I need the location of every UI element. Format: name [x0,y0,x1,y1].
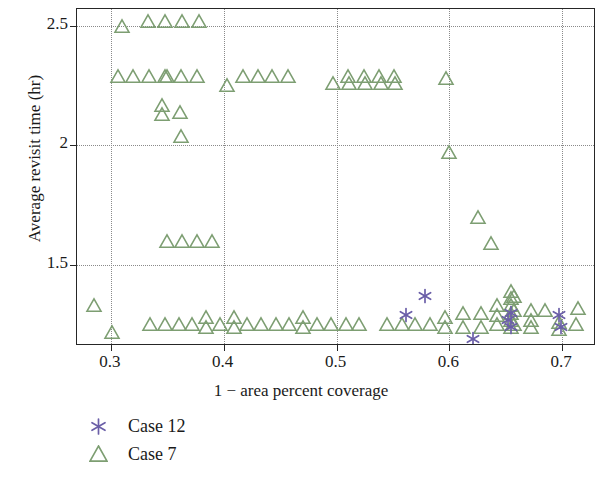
data-point-case-7 [506,317,522,331]
data-point-case-7 [154,97,170,111]
data-point-case-7 [142,317,158,331]
data-point-case-7 [268,317,284,331]
data-point-case-7 [309,317,325,331]
data-point-case-12 [417,288,432,303]
data-point-case-7 [189,234,205,248]
x-axis-tick-label: 0.6 [418,352,478,372]
data-point-case-7 [239,317,255,331]
data-point-case-7 [198,320,214,334]
data-point-case-7 [174,234,190,248]
gridline-horizontal [77,265,594,266]
data-point-case-7 [407,317,423,331]
data-point-case-7 [198,310,214,324]
y-axis-tick [70,265,77,266]
data-point-case-7 [455,305,471,319]
data-point-case-7 [173,69,189,83]
data-point-case-7 [295,320,311,334]
data-point-case-7 [373,76,389,90]
data-point-case-7 [159,69,175,83]
data-point-case-7 [438,71,454,85]
data-point-case-7 [235,69,251,83]
x-axis-tick-label: 0.7 [531,352,591,372]
data-point-case-12 [554,319,569,334]
data-point-case-7 [281,317,297,331]
y-axis-tick-label: 2 [8,133,68,153]
data-point-case-7 [141,69,157,83]
gridline-vertical [111,9,112,344]
legend-label: Case 7 [128,444,177,465]
x-axis-tick [337,344,338,351]
legend-item[interactable]: Case 7 [78,440,186,468]
data-point-case-7 [503,313,519,327]
data-point-case-7 [473,320,489,334]
data-point-case-7 [503,291,519,305]
data-point-case-7 [523,320,539,334]
data-point-case-7 [503,298,519,312]
data-point-case-7 [104,324,120,338]
data-point-case-7 [489,308,505,322]
data-point-case-7 [86,298,102,312]
data-point-case-7 [341,76,357,90]
legend-item[interactable]: Case 12 [78,412,186,440]
x-axis-tick-label: 0.4 [193,352,253,372]
data-point-case-7 [172,105,188,119]
x-axis-tick [449,344,450,351]
x-axis-tick-label: 0.5 [306,352,366,372]
data-point-case-7 [379,317,395,331]
y-axis-tick-label: 2.5 [8,14,68,34]
data-point-case-7 [173,128,189,142]
plot-inner [77,9,594,344]
x-axis-label: 1 − area percent coverage [0,381,602,401]
data-point-case-12 [399,307,414,322]
gridline-horizontal [77,145,594,146]
data-point-case-7 [338,317,354,331]
data-point-case-7 [503,284,519,298]
y-axis-tick [70,145,77,146]
data-point-case-7 [489,298,505,312]
data-point-case-7 [184,317,200,331]
data-point-case-7 [473,305,489,319]
data-point-case-7 [351,317,367,331]
data-point-case-7 [570,301,586,315]
data-point-case-7 [157,317,173,331]
data-point-case-12 [500,312,515,327]
data-point-case-7 [340,69,356,83]
data-point-case-7 [253,317,269,331]
legend-label: Case 12 [128,416,186,437]
x-axis-tick-label: 0.3 [80,352,140,372]
data-point-case-7 [250,69,266,83]
data-point-case-7 [157,69,173,83]
data-point-case-7 [159,234,175,248]
asterisk-icon [78,418,118,435]
data-point-case-12 [466,331,481,344]
data-point-case-7 [171,317,187,331]
data-point-case-7 [506,303,522,317]
data-point-case-12 [504,319,519,334]
data-point-case-7 [503,320,519,334]
data-point-case-7 [551,315,567,329]
data-point-case-7 [568,317,584,331]
gridline-horizontal [77,26,594,27]
data-point-case-7 [371,69,387,83]
data-point-case-7 [437,320,453,334]
x-axis-tick [224,344,225,351]
data-point-case-7 [219,78,235,92]
y-axis-tick-label: 1.5 [8,253,68,273]
scatter-plot-figure: Average revisit time (hr) 1 − area perce… [0,0,602,481]
data-point-case-12 [551,307,566,322]
data-point-case-7 [295,310,311,324]
data-point-case-7 [455,320,471,334]
gridline-vertical [224,9,225,344]
gridline-vertical [449,9,450,344]
x-axis-tick [111,344,112,351]
data-point-case-7 [356,69,372,83]
data-point-case-7 [523,313,539,327]
triangle-icon [78,445,118,462]
x-axis-tick [562,344,563,351]
chart-legend: Case 12Case 7 [78,412,186,468]
data-point-case-7 [422,317,438,331]
data-point-case-7 [110,69,126,83]
data-point-case-7 [226,320,242,334]
data-point-case-7 [357,76,373,90]
data-point-case-7 [125,69,141,83]
